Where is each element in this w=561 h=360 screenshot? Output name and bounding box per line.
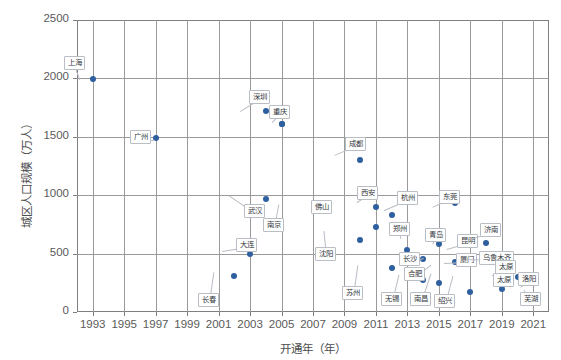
point-label: 长沙 <box>399 252 420 266</box>
gridline-vertical <box>93 20 94 312</box>
x-tick-mark <box>282 312 283 316</box>
data-point <box>373 204 379 210</box>
data-point <box>389 265 395 271</box>
point-label: 杭州 <box>397 191 418 205</box>
gridline-vertical <box>344 20 345 312</box>
point-label: 苏州 <box>342 286 363 300</box>
x-tick-mark <box>156 312 157 316</box>
gridline-vertical <box>187 20 188 312</box>
x-tick-mark <box>533 312 534 316</box>
point-label: 西安 <box>357 186 378 200</box>
data-point <box>373 224 379 230</box>
point-label: 芜湖 <box>520 292 541 306</box>
gridline-vertical <box>313 20 314 312</box>
point-label: 上海 <box>64 56 85 70</box>
x-tick-mark <box>502 312 503 316</box>
y-tick-label: 0 <box>21 304 69 316</box>
x-tick-mark <box>439 312 440 316</box>
data-point <box>436 280 442 286</box>
gridline-vertical <box>470 20 471 312</box>
x-tick-mark <box>407 312 408 316</box>
point-label: 太原 <box>493 273 514 287</box>
point-label: 济南 <box>480 223 501 237</box>
data-point <box>90 76 96 82</box>
point-label: 太原 <box>495 260 516 274</box>
x-tick-mark <box>344 312 345 316</box>
point-label: 南京 <box>263 218 284 232</box>
y-tick-mark <box>73 78 77 79</box>
point-label: 郑州 <box>389 222 410 236</box>
gridline-vertical <box>533 20 534 312</box>
point-label: 南昌 <box>410 292 431 306</box>
gridline-vertical <box>376 20 377 312</box>
point-label: 深圳 <box>249 90 270 104</box>
x-axis-title: 开通年（年） <box>253 340 373 356</box>
gridline-vertical <box>282 20 283 312</box>
y-tick-mark <box>73 312 77 313</box>
x-tick-mark <box>93 312 94 316</box>
y-tick-mark <box>73 20 77 21</box>
point-label: 合肥 <box>404 267 425 281</box>
data-point <box>389 212 395 218</box>
gridline-vertical <box>156 20 157 312</box>
y-tick-mark <box>73 254 77 255</box>
data-point <box>263 108 269 114</box>
point-label: 沈阳 <box>315 247 336 261</box>
point-label: 无锡 <box>381 292 402 306</box>
y-tick-label: 500 <box>21 246 69 258</box>
point-label: 成都 <box>345 137 366 151</box>
point-label: 东莞 <box>439 190 460 204</box>
x-tick-mark <box>313 312 314 316</box>
scatter-chart: 05001000150020002500 1993199519971999200… <box>0 0 561 360</box>
gridline-vertical <box>124 20 125 312</box>
x-tick-label: 2021 <box>513 318 553 330</box>
data-point <box>279 121 285 127</box>
x-tick-mark <box>470 312 471 316</box>
point-label: 洛阳 <box>518 272 539 286</box>
point-label: 广州 <box>130 130 151 144</box>
point-label: 长春 <box>198 293 219 307</box>
x-tick-mark <box>219 312 220 316</box>
gridline-vertical <box>250 20 251 312</box>
point-label: 重庆 <box>269 105 290 119</box>
point-label: 绍兴 <box>434 294 455 308</box>
gridline-vertical <box>219 20 220 312</box>
gridline-vertical <box>439 20 440 312</box>
y-tick-mark <box>73 137 77 138</box>
x-tick-mark <box>187 312 188 316</box>
point-label: 青岛 <box>425 228 446 242</box>
point-label: 佛山 <box>311 200 332 214</box>
point-label: 大连 <box>236 238 257 252</box>
x-tick-mark <box>124 312 125 316</box>
point-label: 武汉 <box>244 204 265 218</box>
y-tick-mark <box>73 195 77 196</box>
x-tick-mark <box>250 312 251 316</box>
data-point <box>357 237 363 243</box>
data-point <box>263 196 269 202</box>
x-tick-mark <box>376 312 377 316</box>
y-tick-label: 2000 <box>21 70 69 82</box>
y-axis-title: 城区人口规模（万人） <box>18 118 34 228</box>
y-tick-label: 2500 <box>21 12 69 24</box>
